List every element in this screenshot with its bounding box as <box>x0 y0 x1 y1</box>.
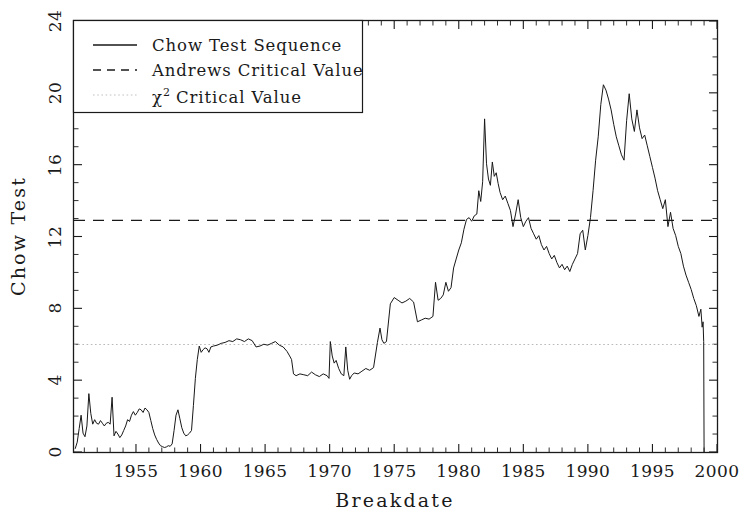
x-tick-label: 1970 <box>307 461 352 481</box>
legend-label-andrews-critical-value: Andrews Critical Value <box>152 61 364 80</box>
y-axis-title: Chow Test <box>7 176 29 296</box>
y-tick-label: 12 <box>45 225 65 247</box>
y-tick-label: 20 <box>45 82 65 104</box>
x-tick-label: 1960 <box>178 461 223 481</box>
chart-plot-area <box>0 0 754 522</box>
x-tick-label: 1955 <box>114 461 159 481</box>
y-tick-label: 16 <box>45 153 65 175</box>
legend-label-chow-test-sequence: Chow Test Sequence <box>152 36 342 55</box>
y-tick-label: 0 <box>45 446 65 457</box>
y-tick-label: 4 <box>45 375 65 386</box>
x-tick-label: 1990 <box>565 461 610 481</box>
y-tick-label: 8 <box>45 303 65 314</box>
chi-legend-rest: Critical Value <box>170 88 302 107</box>
x-tick-label: 1980 <box>436 461 481 481</box>
legend-label-chi-squared-critical-value: χ2 Critical Value <box>152 86 302 107</box>
x-tick-label: 1985 <box>501 461 546 481</box>
chi-symbol: χ <box>152 88 163 107</box>
x-tick-label: 2000 <box>695 461 740 481</box>
chow-test-sequence-line <box>75 85 704 452</box>
chi-exponent: 2 <box>163 86 170 99</box>
chow-test-chart-figure: Chow Test Sequence Andrews Critical Valu… <box>0 0 754 522</box>
x-tick-label: 1965 <box>243 461 288 481</box>
x-tick-label: 1975 <box>372 461 417 481</box>
x-tick-label: 1995 <box>630 461 675 481</box>
y-tick-label: 24 <box>45 10 65 32</box>
x-axis-title: Breakdate <box>335 489 454 511</box>
